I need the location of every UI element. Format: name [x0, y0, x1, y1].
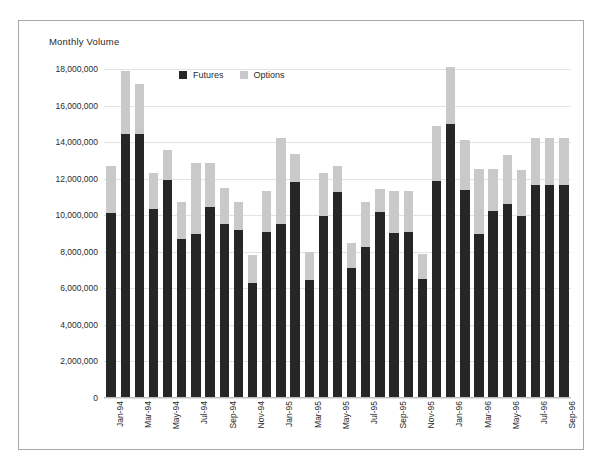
gridline — [104, 106, 571, 107]
bar-segment-options — [106, 166, 115, 214]
bar-segment-futures — [135, 134, 144, 398]
bar-segment-options — [305, 252, 314, 280]
bar-stack[interactable] — [389, 191, 398, 398]
bar-segment-futures — [106, 213, 115, 398]
bar-stack[interactable] — [149, 173, 158, 398]
bar-segment-futures — [389, 233, 398, 398]
bar-stack[interactable] — [474, 169, 483, 398]
bar-stack[interactable] — [404, 191, 413, 398]
chart-frame: Monthly Volume 02,000,0004,000,0006,000,… — [18, 20, 584, 450]
bar-stack[interactable] — [375, 189, 384, 398]
bar-segment-futures — [319, 216, 328, 398]
y-axis-tick-labels: 02,000,0004,000,0006,000,0008,000,00010,… — [19, 69, 98, 398]
x-axis-tick-label: Nov-94 — [256, 401, 266, 428]
bar-segment-options — [559, 138, 568, 185]
x-axis-tick-label: Nov-95 — [426, 401, 436, 428]
y-axis-tick-label: 10,000,000 — [55, 210, 98, 220]
bar-stack[interactable] — [106, 166, 115, 398]
bar-stack[interactable] — [488, 169, 497, 398]
y-axis-tick-label: 18,000,000 — [55, 64, 98, 74]
bar-segment-options — [545, 138, 554, 185]
chart-title: Monthly Volume — [49, 36, 119, 47]
x-axis-tick-labels: Jan-94Mar-94May-94Jul-94Sep-94Nov-94Jan-… — [104, 398, 571, 450]
bar-segment-futures — [418, 279, 427, 398]
bar-segment-futures — [234, 230, 243, 398]
bar-stack[interactable] — [418, 254, 427, 398]
y-axis-tick-label: 8,000,000 — [60, 247, 98, 257]
bar-stack[interactable] — [545, 138, 554, 398]
bar-stack[interactable] — [305, 252, 314, 398]
bar-segment-options — [262, 191, 271, 232]
bar-stack[interactable] — [177, 202, 186, 398]
bar-stack[interactable] — [446, 67, 455, 398]
bar-segment-futures — [276, 224, 285, 398]
bar-stack[interactable] — [361, 202, 370, 398]
bar-stack[interactable] — [135, 84, 144, 398]
bar-segment-futures — [305, 280, 314, 398]
bar-stack[interactable] — [559, 138, 568, 398]
bar-segment-options — [474, 169, 483, 235]
bar-segment-options — [276, 138, 285, 225]
bar-segment-options — [121, 71, 130, 134]
bar-segment-futures — [290, 182, 299, 398]
bar-stack[interactable] — [205, 163, 214, 398]
bar-segment-options — [135, 84, 144, 134]
bar-segment-options — [361, 202, 370, 247]
bar-stack[interactable] — [319, 173, 328, 398]
bar-stack[interactable] — [531, 138, 540, 398]
bar-stack[interactable] — [248, 255, 257, 398]
bar-segment-futures — [347, 268, 356, 398]
bar-segment-options — [460, 140, 469, 189]
bar-stack[interactable] — [517, 170, 526, 398]
y-axis-tick-label: 12,000,000 — [55, 174, 98, 184]
bar-segment-futures — [559, 185, 568, 398]
bar-segment-futures — [361, 247, 370, 398]
legend-swatch-futures — [179, 71, 187, 79]
y-axis-tick-label: 14,000,000 — [55, 137, 98, 147]
x-axis-tick-label: May-94 — [171, 401, 181, 429]
bar-segment-futures — [333, 192, 342, 398]
legend-swatch-options — [240, 71, 248, 79]
x-axis-tick-label: Mar-95 — [313, 401, 323, 428]
legend-label-options: Options — [254, 70, 285, 80]
bar-segment-options — [347, 243, 356, 269]
bar-segment-options — [149, 173, 158, 209]
bar-stack[interactable] — [290, 154, 299, 398]
bar-stack[interactable] — [220, 188, 229, 398]
bar-segment-options — [220, 188, 229, 225]
y-axis-tick-label: 2,000,000 — [60, 356, 98, 366]
bar-stack[interactable] — [121, 71, 130, 398]
bar-segment-futures — [191, 234, 200, 398]
x-axis-tick-label: Sep-94 — [228, 401, 238, 428]
bar-stack[interactable] — [262, 191, 271, 398]
bar-segment-futures — [121, 134, 130, 398]
bar-segment-futures — [404, 232, 413, 398]
x-axis-tick-label: Jul-96 — [539, 401, 549, 424]
x-axis-tick-label: Sep-96 — [567, 401, 577, 428]
x-axis-tick-label: May-95 — [341, 401, 351, 429]
bar-segment-futures — [460, 190, 469, 398]
bar-segment-futures — [262, 232, 271, 398]
x-axis-tick-label: Jan-94 — [115, 401, 125, 427]
bar-segment-futures — [248, 283, 257, 398]
x-axis-tick-label: Mar-96 — [483, 401, 493, 428]
bar-segment-futures — [446, 124, 455, 398]
bar-stack[interactable] — [163, 150, 172, 398]
bar-stack[interactable] — [191, 163, 200, 398]
bar-stack[interactable] — [234, 202, 243, 398]
bar-stack[interactable] — [347, 243, 356, 398]
bar-stack[interactable] — [503, 155, 512, 398]
gridline — [104, 142, 571, 143]
bar-stack[interactable] — [460, 140, 469, 398]
bar-segment-options — [432, 126, 441, 181]
x-axis-tick-label: Sep-95 — [398, 401, 408, 428]
bar-stack[interactable] — [432, 126, 441, 398]
bar-segment-options — [375, 189, 384, 212]
bar-stack[interactable] — [276, 138, 285, 398]
bar-segment-futures — [205, 207, 214, 398]
bar-segment-options — [191, 163, 200, 234]
bar-segment-options — [333, 166, 342, 193]
bar-segment-futures — [432, 181, 441, 399]
bar-stack[interactable] — [333, 166, 342, 398]
bar-segment-options — [446, 67, 455, 124]
